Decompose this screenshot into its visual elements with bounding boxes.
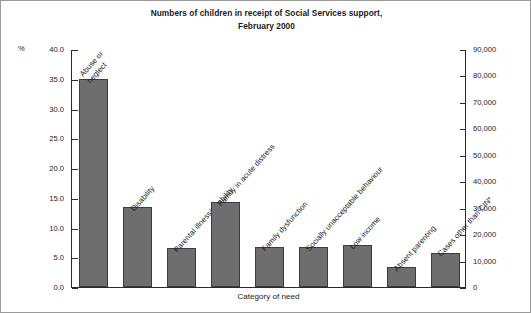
plot-inner: 40.035.030.025.020.015.010.05.00.090,000… <box>72 50 465 287</box>
chart-figure: Numbers of children in receipt of Social… <box>0 0 531 313</box>
y-axis-tick-label-left: 15.0 <box>24 194 64 203</box>
y-axis-tick-label-right: 40,000 <box>473 177 521 186</box>
bar <box>431 253 460 288</box>
y-axis-tick-left <box>72 288 78 289</box>
y-axis-tick-label-left: 5.0 <box>24 253 64 262</box>
category-label-line: Socially unacceptable behaviour <box>304 164 385 252</box>
bar <box>255 247 284 287</box>
chart-title: Numbers of children in receipt of Social… <box>1 7 531 32</box>
bar <box>299 247 328 287</box>
category-axis-label: Family dysfunction <box>260 199 310 253</box>
y-axis-tick-left <box>72 139 78 140</box>
category-axis-label: Socially unacceptable behaviour <box>304 164 385 253</box>
y-axis-tick-label-left: 35.0 <box>24 75 64 84</box>
y-axis-tick-label-left: 10.0 <box>24 224 64 233</box>
bar <box>79 79 108 287</box>
category-label-line: Cases other than CIN* <box>436 195 494 258</box>
bar <box>211 202 240 287</box>
y-axis-tick-label-left: 30.0 <box>24 105 64 114</box>
y-axis-tick-label-left: 0.0 <box>24 283 64 292</box>
y-axis-tick-right <box>460 50 466 51</box>
category-axis-label: Cases other than CIN* <box>436 195 495 259</box>
y-axis-tick-label-left: 40.0 <box>24 45 64 54</box>
bar <box>123 207 152 287</box>
y-axis-tick-label-left: 20.0 <box>24 164 64 173</box>
y-axis-tick-right <box>460 288 466 289</box>
y-axis-tick-right <box>460 182 466 183</box>
category-label-line: Family in acute distress <box>216 142 277 208</box>
y-axis-tick-left <box>72 199 78 200</box>
y-axis-tick-label-right: 80,000 <box>473 71 521 80</box>
y-axis-tick-label-right: 20,000 <box>473 230 521 239</box>
y-axis-tick-label-right: 0 <box>473 283 521 292</box>
y-axis-tick-left <box>72 229 78 230</box>
y-axis-tick-label-right: 60,000 <box>473 124 521 133</box>
y-axis-tick-right <box>460 76 466 77</box>
category-label-line: Family dysfunction <box>260 199 310 253</box>
y-axis-tick-right <box>460 103 466 104</box>
category-axis-label: Family in acute distress <box>216 142 277 208</box>
y-axis-tick-label-right: 90,000 <box>473 45 521 54</box>
bar <box>343 245 372 287</box>
y-axis-tick-left <box>72 110 78 111</box>
x-axis-title: Category of need <box>71 292 466 301</box>
y-axis-tick-left <box>72 80 78 81</box>
y-axis-tick-left <box>72 50 78 51</box>
chart-title-line-2: February 2000 <box>1 20 531 33</box>
y-axis-tick-label-right: 70,000 <box>473 98 521 107</box>
y-axis-tick-left <box>72 258 78 259</box>
y-axis-tick-right <box>460 156 466 157</box>
y-axis-tick-right <box>460 209 466 210</box>
y-axis-tick-left <box>72 169 78 170</box>
y-axis-tick-right <box>460 262 466 263</box>
y-axis-tick-right <box>460 129 466 130</box>
chart-title-line-1: Numbers of children in receipt of Social… <box>1 7 531 20</box>
y-axis-tick-label-right: 10,000 <box>473 257 521 266</box>
y-axis-tick-label-right: 50,000 <box>473 151 521 160</box>
bar <box>167 248 196 287</box>
y-axis-tick-label-left: 25.0 <box>24 134 64 143</box>
plot-area: 40.035.030.025.020.015.010.05.00.090,000… <box>71 50 466 288</box>
